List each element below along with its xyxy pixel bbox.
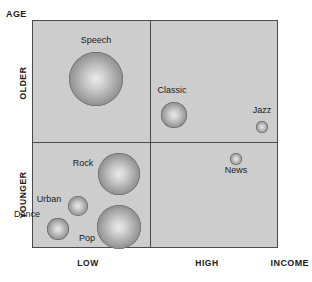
bubble-news [230, 153, 242, 165]
bubble-label-rock: Rock [53, 158, 113, 168]
bubble-label-jazz: Jazz [232, 105, 292, 115]
quadrant-divider-horizontal [33, 142, 277, 143]
bubble-label-dance: Dance [0, 209, 57, 219]
bubble-classic [161, 102, 187, 128]
x-axis-tick-high: HIGH [183, 258, 231, 268]
bubble-label-classic: Classic [142, 85, 202, 95]
bubble-label-news: News [206, 165, 266, 175]
x-axis-tick-low: LOW [64, 258, 112, 268]
y-axis-title: AGE [6, 9, 27, 19]
bubble-label-pop: Pop [57, 233, 117, 243]
bubble-chart-figure: AGE INCOME OLDER YOUNGER LOW HIGH Speech… [0, 0, 312, 282]
y-axis-tick-older: OLDER [18, 63, 28, 103]
x-axis-title: INCOME [271, 258, 309, 268]
plot-area: SpeechClassicJazzRockUrbanDancePopNews [32, 20, 278, 248]
bubble-speech [69, 52, 123, 106]
bubble-label-urban: Urban [19, 194, 79, 204]
bubble-label-speech: Speech [66, 35, 126, 45]
bubble-jazz [256, 121, 268, 133]
quadrant-divider-vertical [150, 21, 151, 247]
